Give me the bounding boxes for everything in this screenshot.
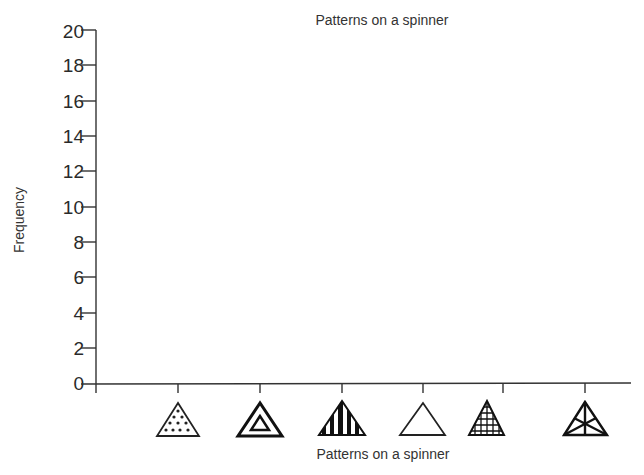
grid-triangle-icon xyxy=(466,398,508,436)
nested-triangle-icon xyxy=(238,403,282,436)
plot-area xyxy=(0,0,644,475)
median-lines-triangle-icon xyxy=(564,402,607,435)
x-axis xyxy=(81,383,631,393)
striped-triangle-icon xyxy=(319,400,365,436)
y-axis xyxy=(81,30,96,393)
plain-triangle-icon xyxy=(400,403,445,435)
dotted-triangle-icon xyxy=(157,403,199,436)
